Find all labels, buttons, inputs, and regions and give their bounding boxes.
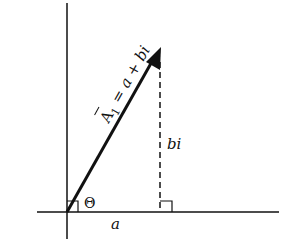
vector-arrow-shaft (67, 58, 154, 212)
right-angle-marker-foot (160, 201, 172, 212)
imaginary-component-label: bi (167, 137, 181, 152)
diagram-graphics (0, 0, 288, 239)
real-component-label: a (111, 217, 120, 232)
complex-vector-diagram: A1 = a + bi bi a Θ (0, 0, 288, 239)
angle-theta-label: Θ (84, 196, 95, 210)
